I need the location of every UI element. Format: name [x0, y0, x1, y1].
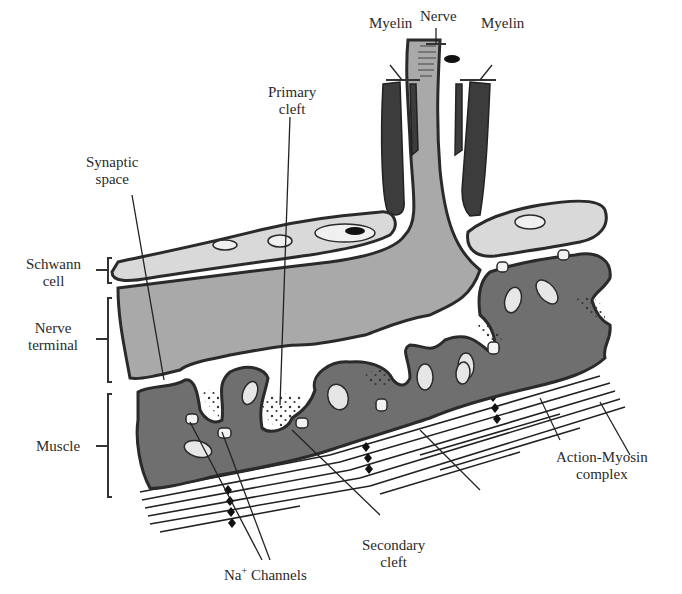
label-synaptic-space: Synaptic space — [86, 154, 139, 188]
label-secondary-cleft: Secondary cleft — [362, 537, 425, 571]
label-action-myosin-line1: Action-Myosin — [556, 449, 648, 466]
label-schwann-cell-line1: Schwann — [26, 256, 81, 273]
label-primary-cleft-line1: Primary — [268, 84, 316, 101]
label-nerve-terminal-line2: terminal — [28, 337, 78, 354]
label-na-suffix: Channels — [247, 567, 307, 583]
label-nerve: Nerve — [420, 8, 457, 25]
label-secondary-cleft-line2: cleft — [362, 554, 425, 571]
label-muscle: Muscle — [36, 438, 80, 455]
label-action-myosin-line2: complex — [556, 466, 648, 483]
schwann-nucleus-dark — [345, 227, 365, 235]
nerve-opening — [444, 55, 460, 63]
label-na-prefix: Na — [224, 567, 242, 583]
label-nerve-terminal: Nerve terminal — [28, 320, 78, 354]
label-synaptic-space-line2: space — [86, 171, 139, 188]
label-na-channels: Na+ Channels — [224, 562, 307, 584]
label-schwann-cell: Schwann cell — [26, 256, 81, 290]
label-primary-cleft-line2: cleft — [268, 101, 316, 118]
label-synaptic-space-line1: Synaptic — [86, 154, 139, 171]
label-action-myosin: Action-Myosin complex — [556, 449, 648, 483]
label-schwann-cell-line2: cell — [26, 273, 81, 290]
neuromuscular-junction-diagram — [0, 0, 682, 594]
label-myelin-right: Myelin — [481, 15, 524, 32]
label-primary-cleft: Primary cleft — [268, 84, 316, 118]
label-myelin-left: Myelin — [369, 15, 412, 32]
label-secondary-cleft-line1: Secondary — [362, 537, 425, 554]
label-nerve-terminal-line1: Nerve — [28, 320, 78, 337]
